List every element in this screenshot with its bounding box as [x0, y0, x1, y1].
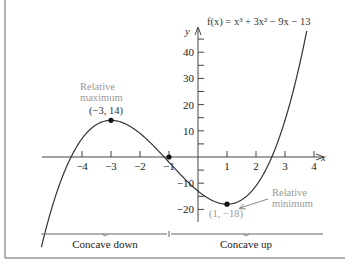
relative-maximum-label-line1: Relative — [80, 81, 115, 92]
relative-maximum-coords: (−3, 14) — [89, 105, 123, 117]
relative-maximum-label-line2: maximum — [80, 92, 123, 103]
y-tick-label: 10 — [183, 125, 195, 137]
x-tick-label: 4 — [311, 160, 317, 172]
concavity-regions: Concave downConcave up — [41, 231, 323, 250]
x-tick-label: −4 — [76, 160, 88, 172]
annotations: Relativemaximum(−3, 14)Relativeminimum(1… — [80, 81, 313, 220]
chart: −4−3−2−11234−20−1010203040 Relativemaxim… — [0, 0, 345, 270]
x-tick-label: 2 — [253, 160, 259, 172]
y-tick-label: 30 — [183, 72, 195, 84]
x-axis-label: x — [320, 152, 326, 163]
x-tick-label: −2 — [134, 160, 146, 172]
concave-up-label: Concave up — [220, 238, 273, 250]
y-axis-label: y — [184, 26, 190, 37]
x-tick-label: 1 — [224, 160, 230, 172]
inflection-point-point — [166, 154, 171, 159]
relative-minimum-label-line1: Relative — [272, 187, 307, 198]
y-tick-label: 20 — [183, 99, 195, 111]
relative-minimum-point — [224, 202, 229, 207]
relative-minimum-coords: (1, −18) — [209, 208, 243, 220]
relative-minimum-arrow — [240, 199, 268, 208]
y-tick-label: −20 — [177, 203, 195, 215]
x-tick-label: −3 — [105, 160, 117, 172]
function-label: f(x) = x³ + 3x² − 9x − 13 — [207, 16, 310, 28]
y-tick-label: 40 — [183, 46, 195, 58]
concave-down-label: Concave down — [72, 238, 138, 250]
x-tick-label: 3 — [282, 160, 288, 172]
relative-minimum-label-line2: minimum — [272, 198, 313, 209]
function-curve — [41, 31, 306, 247]
relative-maximum-point — [108, 118, 113, 123]
